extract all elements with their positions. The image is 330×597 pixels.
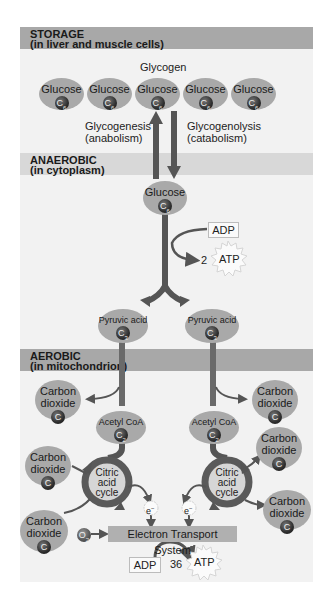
carbon-dioxide-bottom-right: Carbondioxide C xyxy=(263,490,311,530)
carbon-ball-icon: C6 xyxy=(199,96,213,110)
carbon-ball-icon: C xyxy=(41,476,55,490)
electron-right: e− xyxy=(184,502,193,517)
carbon-dioxide-top-left: Carbondioxide C xyxy=(35,380,81,420)
carbon-ball-icon: C3 xyxy=(116,326,130,340)
atp-label: ATP xyxy=(219,253,240,265)
carbon-dioxide-bottom-left: Carbondioxide C xyxy=(20,510,68,552)
atp-label-aerobic: ATP xyxy=(194,556,215,568)
glucose-node: Glucose C6 xyxy=(39,78,84,110)
carbon-ball-icon: C xyxy=(37,540,51,554)
carbon-dioxide-mid-right: Carbondioxide C xyxy=(256,427,302,469)
oxygen-molecule-icon: O2 xyxy=(77,528,91,542)
acetyl-coa-left: Acetyl CoA C2 xyxy=(96,411,146,444)
carbon-ball-icon: C2 xyxy=(114,428,128,442)
carbon-ball-icon: C2 xyxy=(207,428,221,442)
citric-acid-cycle-right: Citricacidcycle xyxy=(212,468,242,498)
glucose-node: Glucose C6 xyxy=(183,78,228,110)
glucose-node: Glucose C6 xyxy=(135,78,180,110)
glucose-node: Glucose C6 xyxy=(87,78,132,110)
glucose-node: Glucose C6 xyxy=(231,78,276,110)
adp-box: ADP xyxy=(208,222,239,238)
carbon-ball-icon: C xyxy=(272,457,286,471)
carbon-ball-icon: C6 xyxy=(151,96,165,110)
carbon-dioxide-mid-left: Carbondioxide C xyxy=(25,446,71,486)
acetyl-coa-right: Acetyl CoA C2 xyxy=(189,411,239,444)
electron-left: e− xyxy=(146,502,155,517)
atp-count-aerobic: 36 xyxy=(170,558,182,570)
carbon-ball-icon: C6 xyxy=(103,96,117,110)
glucose-node-anaerobic: Glucose C6 xyxy=(143,181,187,215)
glycogenolysis-label: Glycogenolysis (catabolism) xyxy=(187,120,261,144)
carbon-ball-icon: C xyxy=(280,520,294,534)
carbon-dioxide-top-right: Carbondioxide C xyxy=(252,380,298,420)
pyruvic-acid-right: Pyruvic acid C3 xyxy=(185,309,239,343)
electron-transport-system: Electron Transport System xyxy=(108,526,237,542)
citric-acid-cycle-left: Citricacidcycle xyxy=(92,468,122,498)
glycogen-label: Glycogen xyxy=(140,61,186,73)
pyruvic-acid-left: Pyruvic acid C3 xyxy=(98,309,148,343)
glycogenesis-label: Glycogenesis (anabolism) xyxy=(85,120,151,144)
carbon-ball-icon: C6 xyxy=(247,96,261,110)
carbon-ball-icon: C6 xyxy=(55,96,69,110)
carbon-ball-icon: C xyxy=(268,410,282,424)
carbon-ball-icon: C6 xyxy=(158,199,172,213)
carbon-ball-icon: C3 xyxy=(205,326,219,340)
atp-count: 2 xyxy=(201,254,207,266)
carbon-ball-icon: C xyxy=(51,410,65,424)
adp-box-aerobic: ADP xyxy=(129,557,161,573)
